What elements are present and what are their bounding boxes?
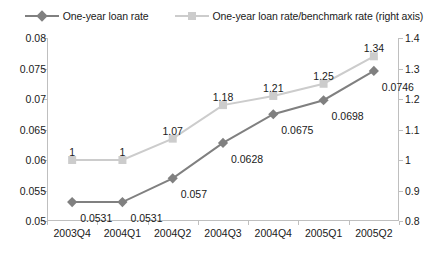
x-axis-category-label: 2004Q4 <box>255 228 292 239</box>
right-tick <box>399 130 403 131</box>
data-point-label: 1.18 <box>213 92 233 103</box>
right-tick <box>399 69 403 70</box>
left-axis-tick-label: 0.06 <box>26 155 46 166</box>
right-axis-tick-label: 0.8 <box>405 216 420 227</box>
legend-label-ratio: One-year loan rate/benchmark rate (right… <box>213 10 424 22</box>
data-point-label: 1.25 <box>313 71 333 82</box>
x-tick <box>399 221 400 225</box>
right-axis-tick-label: 0.9 <box>405 185 420 196</box>
left-axis-tick-label: 0.07 <box>26 94 46 105</box>
series-lines <box>47 38 399 221</box>
legend-item-loan-rate: One-year loan rate <box>25 10 149 22</box>
data-point-marker <box>268 109 278 119</box>
data-point-label: 1.07 <box>162 126 182 137</box>
right-axis-tick-label: 1 <box>405 155 411 166</box>
x-axis-category-label: 2004Q3 <box>204 228 241 239</box>
data-point-label: 1 <box>69 147 75 158</box>
left-axis-tick-label: 0.08 <box>26 33 46 44</box>
data-point-label: 0.0698 <box>332 111 364 122</box>
x-tick <box>248 221 249 225</box>
right-tick <box>399 38 403 39</box>
right-tick <box>399 191 403 192</box>
x-axis-category-label: 2004Q1 <box>104 228 141 239</box>
square-marker-icon <box>175 11 209 21</box>
x-tick <box>198 221 199 225</box>
x-axis-category-label: 2004Q2 <box>154 228 191 239</box>
x-axis-category-label: 2005Q2 <box>355 228 392 239</box>
right-axis-tick-label: 1.3 <box>405 63 420 74</box>
data-point-label: 0.0531 <box>130 213 162 224</box>
data-point-label: 0.0628 <box>231 154 263 165</box>
chart-container: One-year loan rate One-year loan rate/be… <box>0 0 448 256</box>
x-tick <box>47 221 48 225</box>
left-axis-tick-label: 0.05 <box>26 216 46 227</box>
right-axis-tick-label: 1.1 <box>405 124 420 135</box>
data-point-label: 1.34 <box>364 43 384 54</box>
right-axis-tick-label: 1.2 <box>405 94 420 105</box>
data-point-label: 0.0531 <box>80 213 112 224</box>
data-point-marker <box>318 95 328 105</box>
data-point-label: 1 <box>120 147 126 158</box>
x-tick <box>298 221 299 225</box>
legend-item-ratio: One-year loan rate/benchmark rate (right… <box>175 10 424 22</box>
legend-label-loan-rate: One-year loan rate <box>63 10 149 22</box>
data-point-label: 0.0746 <box>382 82 414 93</box>
data-point-label: 0.057 <box>181 189 207 200</box>
data-point-marker <box>67 197 77 207</box>
diamond-marker-icon <box>25 11 59 21</box>
x-axis-category-label: 2005Q1 <box>305 228 342 239</box>
plot-area: 0.050.0550.060.0650.070.0750.08 0.80.911… <box>47 38 399 221</box>
left-axis-tick-label: 0.065 <box>20 124 46 135</box>
left-axis-tick-label: 0.055 <box>20 185 46 196</box>
data-point-label: 0.0675 <box>281 125 313 136</box>
right-axis-tick-label: 1.4 <box>405 33 420 44</box>
data-point-marker <box>117 197 127 207</box>
x-axis-category-label: 2003Q4 <box>53 228 90 239</box>
right-tick <box>399 160 403 161</box>
chart-legend: One-year loan rate One-year loan rate/be… <box>0 6 448 26</box>
data-point-label: 1.21 <box>263 83 283 94</box>
left-axis-tick-label: 0.075 <box>20 63 46 74</box>
data-point-marker <box>369 66 379 76</box>
x-tick <box>349 221 350 225</box>
right-tick <box>399 99 403 100</box>
